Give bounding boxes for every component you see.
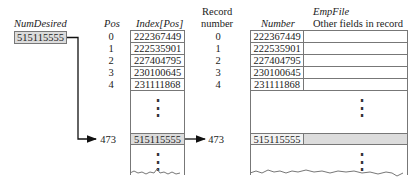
connector-arrows <box>0 0 417 185</box>
